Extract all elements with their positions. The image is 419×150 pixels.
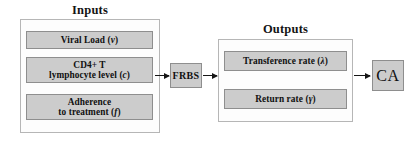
input-node-adherence-to-treatment[interactable]: Adherence to treatment (f)	[26, 94, 153, 120]
outputs-group-title: Outputs	[218, 22, 353, 37]
output-node-transference-rate-label: Transference rate (λ)	[243, 56, 328, 66]
input-node-cd4-t-lymphocyte-level[interactable]: CD4+ T lymphocyte level (c)	[26, 57, 153, 83]
frbs-node[interactable]: FRBS	[170, 63, 202, 88]
ca-node[interactable]: CA	[372, 60, 404, 91]
block-diagram: Inputs Viral Load (v) CD4+ T lymphocyte …	[0, 0, 419, 150]
output-node-transference-rate[interactable]: Transference rate (λ)	[224, 51, 347, 71]
ca-node-label: CA	[376, 67, 399, 85]
output-node-return-rate-label: Return rate (γ)	[255, 94, 316, 104]
input-node-cd4-t-lymphocyte-level-label: CD4+ T lymphocyte level (c)	[49, 60, 130, 81]
output-node-return-rate[interactable]: Return rate (γ)	[224, 89, 347, 109]
inputs-group-title: Inputs	[20, 3, 160, 18]
arrow-outputs-to-ca	[354, 75, 370, 76]
input-node-viral-load-label: Viral Load (v)	[61, 35, 118, 45]
arrow-frbs-to-outputs	[203, 75, 217, 76]
frbs-node-label: FRBS	[173, 70, 200, 81]
arrow-inputs-to-frbs	[155, 75, 169, 76]
input-node-viral-load[interactable]: Viral Load (v)	[26, 31, 153, 49]
input-node-adherence-to-treatment-label: Adherence to treatment (f)	[58, 97, 120, 118]
